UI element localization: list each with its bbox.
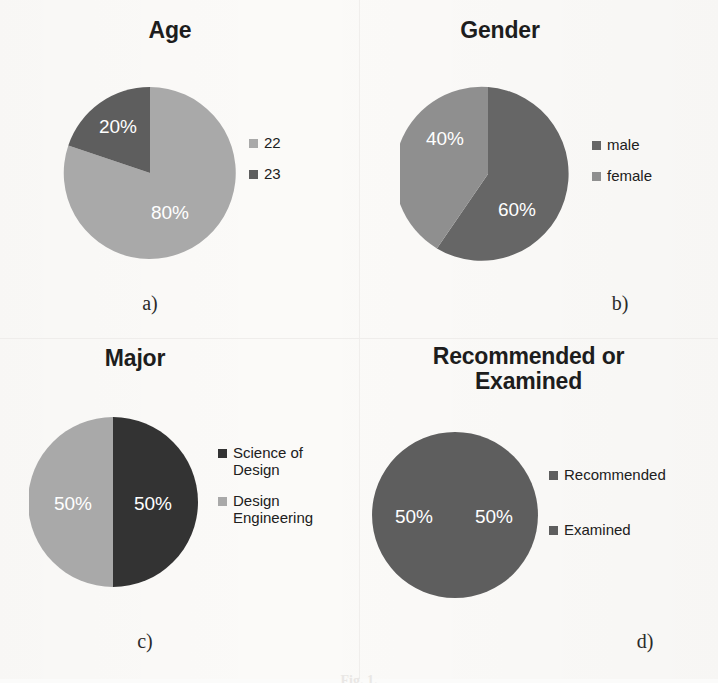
pie-label-major-design-engineering: 50% (54, 493, 92, 514)
legend-item-recommended[interactable]: Recommended (549, 466, 666, 483)
chart-title-recommended-or-examined: Recommended or Examined (406, 344, 651, 394)
pie-label-examined: 50% (395, 506, 433, 527)
chart-title-gender: Gender (400, 18, 600, 43)
legend-item-gender-male[interactable]: male (592, 136, 652, 153)
legend-swatch-icon (249, 170, 258, 179)
legend-recommended-or-examined: Recommended Examined (549, 466, 666, 552)
legend-item-examined[interactable]: Examined (549, 521, 666, 538)
pie-label-gender-female: 40% (426, 128, 464, 149)
sub-caption-c: c) (105, 630, 185, 653)
legend-swatch-icon (218, 449, 227, 458)
chart-title-major: Major (35, 346, 235, 371)
legend-major: Science of Design Design Engineering (218, 444, 313, 540)
legend-item-major-design-engineering[interactable]: Design Engineering (218, 492, 313, 526)
legend-swatch-icon (592, 172, 601, 181)
vertical-divider (359, 0, 360, 679)
legend-swatch-icon (549, 471, 558, 480)
legend-label-recommended: Recommended (564, 466, 666, 483)
legend-label-age-23: 23 (264, 165, 281, 182)
pie-label-major-science-of-design: 50% (134, 493, 172, 514)
legend-label-major-design-engineering: Design Engineering (233, 492, 313, 526)
figure-caption: Fig. 1. (0, 673, 718, 683)
legend-swatch-icon (592, 141, 601, 150)
pie-chart-recommended-or-examined: 50% 50% (372, 432, 542, 602)
legend-swatch-icon (218, 497, 227, 506)
legend-label-age-22: 22 (264, 134, 281, 151)
pie-label-age-23: 20% (99, 116, 137, 137)
pie-label-recommended: 50% (475, 506, 513, 527)
legend-age: 22 23 (249, 134, 281, 196)
legend-item-age-23[interactable]: 23 (249, 165, 281, 182)
horizontal-divider (0, 338, 718, 339)
sub-caption-a: a) (110, 292, 190, 315)
pie-label-gender-male: 60% (498, 199, 536, 220)
legend-label-gender-female: female (607, 167, 652, 184)
legend-swatch-icon (249, 139, 258, 148)
legend-gender: male female (592, 136, 652, 198)
legend-swatch-icon (549, 526, 558, 535)
pie-chart-major: 50% 50% (29, 412, 199, 592)
legend-label-major-science-of-design: Science of Design (233, 444, 303, 478)
pie-chart-gender: 60% 40% (400, 84, 578, 264)
legend-item-age-22[interactable]: 22 (249, 134, 281, 151)
chart-title-age: Age (70, 18, 270, 43)
legend-item-gender-female[interactable]: female (592, 167, 652, 184)
sub-caption-b: b) (580, 292, 660, 315)
legend-label-gender-male: male (607, 136, 640, 153)
legend-label-examined: Examined (564, 521, 631, 538)
pie-label-age-22: 80% (151, 202, 189, 223)
pie-chart-age: 80% 20% (62, 84, 238, 262)
legend-item-major-science-of-design[interactable]: Science of Design (218, 444, 313, 478)
sub-caption-d: d) (605, 630, 685, 653)
